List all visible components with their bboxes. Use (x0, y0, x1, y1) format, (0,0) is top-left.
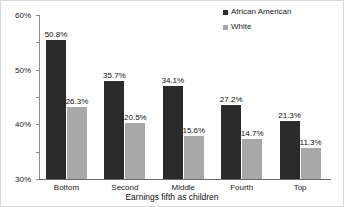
x-axis-category-label: Fourth (214, 183, 269, 192)
bar-group: 21.3%11.3%Top (273, 15, 331, 179)
y-axis-tick-label: 40% (15, 120, 31, 129)
legend-swatch-icon (223, 10, 228, 15)
bar-african-american: 27.2% (221, 105, 241, 179)
x-axis-category-label: Top (273, 183, 328, 192)
y-axis-tick-mark: 0% (36, 179, 39, 180)
bar-african-american: 50.8% (46, 40, 66, 179)
bar-value-label: 34.1% (161, 76, 184, 85)
y-axis-tick-label: 30% (15, 175, 31, 184)
plot-area: 0%10%20%30%40%50%60% 50.8%26.3%Bottom35.… (39, 15, 331, 180)
y-axis-tick-label: 60% (15, 11, 31, 20)
x-axis-category-label: Bottom (39, 183, 94, 192)
bar-value-label: 11.3% (300, 138, 322, 147)
bar-value-label: 20.5% (124, 113, 147, 122)
bar-white: 14.7% (242, 139, 262, 179)
bar-african-american: 34.1% (163, 86, 183, 179)
bar-group: 34.1%15.6%Middle (156, 15, 214, 179)
bar-value-label: 50.8% (45, 30, 68, 39)
bar-group: 27.2%14.7%Fourth (214, 15, 272, 179)
bar-white: 20.5% (125, 123, 145, 179)
bar-value-label: 14.7% (241, 129, 264, 138)
bar-value-label: 35.7% (103, 71, 126, 80)
bar-white: 15.6% (184, 136, 204, 179)
bar-white: 26.3% (67, 107, 87, 179)
x-axis-line (39, 179, 331, 180)
bar-value-label: 15.6% (182, 126, 205, 135)
bar-african-american: 21.3% (280, 121, 300, 179)
x-axis-category-label: Middle (156, 183, 211, 192)
bar-group: 50.8%26.3%Bottom (39, 15, 97, 179)
y-axis-tick-label: 50% (15, 65, 31, 74)
bar-value-label: 27.2% (220, 95, 243, 104)
bar-chart: African American White 0%10%20%30%40%50%… (0, 0, 344, 207)
bar-african-american: 35.7% (104, 81, 124, 179)
bar-value-label: 21.3% (278, 111, 301, 120)
bar-value-label: 26.3% (66, 97, 89, 106)
bar-white: 11.3% (301, 148, 321, 179)
bar-group: 35.7%20.5%Second (97, 15, 155, 179)
x-axis-title: Earnings fifth as children (1, 192, 343, 202)
x-axis-category-label: Second (97, 183, 152, 192)
